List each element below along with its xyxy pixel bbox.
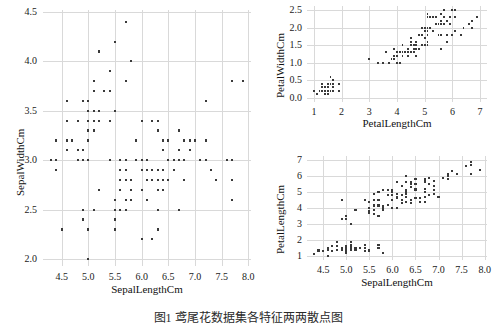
y-tick-label: 4.5 — [0, 7, 37, 17]
scatter-point — [336, 245, 338, 247]
scatter-point — [401, 202, 403, 204]
scatter-point — [446, 41, 448, 43]
scatter-point — [368, 212, 370, 214]
scatter-point — [424, 188, 426, 190]
scatter-point — [77, 120, 79, 122]
scatter-point — [396, 181, 398, 183]
scatter-point — [189, 139, 191, 141]
scatter-point — [391, 194, 393, 196]
scatter-point — [71, 139, 73, 141]
scatter-point — [391, 207, 393, 209]
scatter-point — [446, 20, 448, 22]
scatter-point — [410, 202, 412, 204]
scatter-point — [125, 169, 127, 171]
scatter-point — [205, 159, 207, 161]
scatter-point — [399, 62, 401, 64]
scatter-point — [199, 159, 201, 161]
scatter-point — [428, 177, 430, 179]
scatter-point — [442, 177, 444, 179]
scatter-point — [350, 241, 352, 243]
x-tick-label: 6.0 — [386, 265, 399, 275]
scatter-point — [82, 149, 84, 151]
gridline-vertical — [248, 10, 249, 266]
scatter-point — [415, 48, 417, 50]
scatter-point — [82, 159, 84, 161]
scatter-point — [440, 34, 442, 36]
gridline-vertical — [168, 10, 169, 266]
scatter-point — [424, 37, 426, 39]
scatter-point — [377, 244, 379, 246]
scatter-point — [454, 30, 456, 32]
scatter-point — [231, 159, 233, 161]
scatter-point — [402, 44, 404, 46]
scatter-point — [87, 139, 89, 141]
scatter-point — [141, 120, 143, 122]
scatter-point — [327, 83, 329, 85]
x-tick-label: 7.0 — [432, 265, 445, 275]
scatter-point — [433, 193, 435, 195]
gridline-vertical — [480, 6, 481, 102]
scatter-point — [427, 16, 429, 18]
scatter-point — [368, 58, 370, 60]
scatter-point — [146, 159, 148, 161]
scatter-point — [424, 44, 426, 46]
chart-panel-petal-length-vs-sepal-length: PetalLengthCm SepalLengthCm 4.55.05.56.0… — [260, 140, 496, 302]
y-tick-label: 3 — [260, 219, 302, 229]
scatter-point — [345, 218, 347, 220]
scatter-point — [321, 83, 323, 85]
scatter-point — [415, 41, 417, 43]
scatter-point — [433, 189, 435, 191]
scatter-point — [130, 179, 132, 181]
scatter-point — [313, 90, 315, 92]
scatter-point — [427, 13, 429, 15]
scatter-point — [446, 34, 448, 36]
scatter-point — [332, 90, 334, 92]
x-tick-label: 6.0 — [135, 272, 148, 282]
scatter-point — [424, 27, 426, 29]
scatter-point — [231, 199, 233, 201]
x-tick-label: 5.0 — [82, 272, 95, 282]
scatter-point — [157, 179, 159, 181]
scatter-point — [388, 62, 390, 64]
scatter-point — [183, 179, 185, 181]
y-tick-label: 2.0 — [0, 254, 37, 264]
scatter-point — [401, 194, 403, 196]
scatter-point — [407, 55, 409, 57]
scatter-point — [178, 149, 180, 151]
gridline-horizontal — [307, 10, 487, 11]
scatter-point — [87, 159, 89, 161]
scatter-point — [377, 247, 379, 249]
scatter-point — [418, 48, 420, 50]
scatter-point — [413, 44, 415, 46]
scatter-point — [393, 48, 395, 50]
scatter-point — [377, 215, 379, 217]
axis-label-x-0: SepalLengthCm — [111, 283, 183, 295]
y-tick-label: 1 — [260, 251, 302, 261]
scatter-point — [391, 58, 393, 60]
scatter-point — [377, 191, 379, 193]
gridline-horizontal — [307, 176, 487, 177]
scatter-point — [424, 201, 426, 203]
scatter-point — [125, 209, 127, 211]
scatter-point — [364, 199, 366, 201]
scatter-point — [66, 139, 68, 141]
scatter-point — [93, 120, 95, 122]
y-tick-label: 2.5 — [0, 205, 37, 215]
gridline-horizontal — [307, 160, 487, 161]
y-tick-label: 4.0 — [0, 56, 37, 66]
scatter-point — [151, 238, 153, 240]
scatter-point — [151, 169, 153, 171]
scatter-point — [146, 179, 148, 181]
scatter-point — [350, 245, 352, 247]
scatter-point — [189, 149, 191, 151]
scatter-point — [114, 218, 116, 220]
scatter-point — [410, 183, 412, 185]
scatter-point — [387, 189, 389, 191]
scatter-point — [332, 86, 334, 88]
scatter-point — [215, 179, 217, 181]
scatter-point — [393, 58, 395, 60]
scatter-point — [162, 139, 164, 141]
gridline-horizontal — [43, 210, 251, 211]
scatter-point — [167, 139, 169, 141]
plot-area-sepal-width-vs-sepal-length — [43, 10, 251, 266]
